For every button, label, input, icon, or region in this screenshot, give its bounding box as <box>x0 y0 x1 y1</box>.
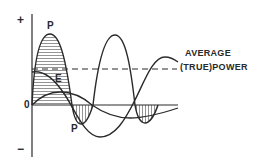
minus-sign-label: − <box>17 143 24 155</box>
power-label-top: P <box>47 21 54 31</box>
origin-label: 0 <box>24 100 30 110</box>
power-label-bottom: P <box>71 124 78 134</box>
power-waveform-diagram: + − 0 P P E AVERAGE (TRUE)POWER <box>0 0 269 164</box>
voltage-label: E <box>55 74 62 84</box>
average-power-label-line1: AVERAGE <box>185 49 231 58</box>
plus-sign-label: + <box>17 14 24 26</box>
waveform-canvas <box>0 0 269 164</box>
average-power-label-line2: (TRUE)POWER <box>180 63 248 72</box>
